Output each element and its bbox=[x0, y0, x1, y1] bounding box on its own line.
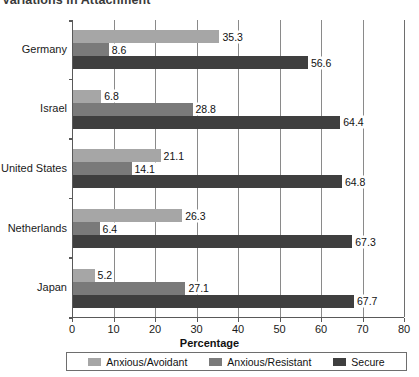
x-axis-tick bbox=[114, 318, 115, 322]
x-axis-tick bbox=[197, 318, 198, 322]
legend-swatch-icon bbox=[209, 358, 222, 366]
bar bbox=[73, 90, 101, 103]
bar-value-label: 67.7 bbox=[355, 295, 379, 308]
x-axis-tick bbox=[238, 318, 239, 322]
x-axis-title: Percentage bbox=[0, 337, 419, 349]
x-axis-tick bbox=[321, 318, 322, 322]
bar bbox=[73, 269, 95, 282]
bar-group: 35.38.656.6 bbox=[73, 20, 404, 80]
x-axis-tick-label: 0 bbox=[69, 323, 75, 335]
legend-label: Secure bbox=[351, 356, 384, 368]
bar-value-label: 56.6 bbox=[309, 56, 333, 69]
legend-swatch-icon bbox=[88, 358, 101, 366]
bar bbox=[73, 116, 340, 129]
bar-row: 28.8 bbox=[73, 103, 405, 116]
x-axis-tick-label: 60 bbox=[315, 323, 327, 335]
bar-chart: Variations in Attachment 35.38.656.66.82… bbox=[0, 0, 419, 377]
bar-row: 56.6 bbox=[73, 56, 405, 69]
bar-value-label: 14.1 bbox=[133, 162, 157, 175]
bar bbox=[73, 43, 109, 56]
x-axis-tick-label: 40 bbox=[232, 323, 244, 335]
bar-value-label: 64.8 bbox=[343, 175, 367, 188]
bar-row: 26.3 bbox=[73, 209, 405, 222]
bar-value-label: 64.4 bbox=[341, 116, 365, 129]
x-axis-tick bbox=[155, 318, 156, 322]
y-axis-category-israel: Israel bbox=[40, 102, 67, 114]
bar-value-label: 5.2 bbox=[96, 269, 115, 282]
legend-item[interactable]: Anxious/Avoidant bbox=[88, 356, 187, 368]
plot-area: 35.38.656.66.828.864.421.114.164.826.36.… bbox=[72, 20, 404, 318]
bar-value-label: 35.3 bbox=[220, 30, 244, 43]
bar-row: 8.6 bbox=[73, 43, 405, 56]
y-axis-category-netherlands: Netherlands bbox=[8, 222, 67, 234]
bar-value-label: 21.1 bbox=[162, 149, 186, 162]
bar-group: 21.114.164.8 bbox=[73, 139, 404, 199]
bar bbox=[73, 235, 352, 248]
bar bbox=[73, 162, 132, 175]
bar-group: 5.227.167.7 bbox=[73, 258, 404, 318]
x-axis-tick bbox=[280, 318, 281, 322]
bar bbox=[73, 282, 185, 295]
bar-row: 6.8 bbox=[73, 90, 405, 103]
bar-row: 21.1 bbox=[73, 149, 405, 162]
bar bbox=[73, 209, 182, 222]
bar-value-label: 6.8 bbox=[102, 90, 121, 103]
y-axis-tick bbox=[69, 20, 73, 22]
bar bbox=[73, 103, 193, 116]
bar-row: 5.2 bbox=[73, 269, 405, 282]
bar bbox=[73, 149, 161, 162]
bar bbox=[73, 56, 308, 69]
bar-value-label: 27.1 bbox=[186, 282, 210, 295]
x-axis-tick bbox=[404, 318, 405, 322]
bar-row: 67.7 bbox=[73, 295, 405, 308]
bar-value-label: 28.8 bbox=[194, 103, 218, 116]
x-axis-tick-label: 10 bbox=[107, 323, 119, 335]
bar bbox=[73, 295, 354, 308]
bar-value-label: 8.6 bbox=[110, 43, 129, 56]
y-axis-category-germany: Germany bbox=[22, 43, 67, 55]
bar bbox=[73, 175, 342, 188]
y-axis-category-united-states: United States bbox=[1, 162, 67, 174]
bar bbox=[73, 30, 219, 43]
legend-label: Anxious/Avoidant bbox=[106, 356, 187, 368]
legend-item[interactable]: Anxious/Resistant bbox=[209, 356, 311, 368]
bar-row: 67.3 bbox=[73, 235, 405, 248]
x-axis-tick-label: 50 bbox=[273, 323, 285, 335]
x-axis-tick-label: 30 bbox=[190, 323, 202, 335]
bar-value-label: 26.3 bbox=[183, 209, 207, 222]
x-axis-tick-label: 70 bbox=[356, 323, 368, 335]
x-axis-tick-label: 80 bbox=[398, 323, 410, 335]
bar-row: 64.8 bbox=[73, 175, 405, 188]
y-axis-category-japan: Japan bbox=[37, 281, 67, 293]
bar-row: 27.1 bbox=[73, 282, 405, 295]
bar-group: 6.828.864.4 bbox=[73, 80, 404, 140]
legend-label: Anxious/Resistant bbox=[227, 356, 311, 368]
chart-legend: Anxious/AvoidantAnxious/ResistantSecure bbox=[66, 352, 407, 371]
bar-value-label: 6.4 bbox=[101, 222, 120, 235]
x-axis-tick bbox=[72, 318, 73, 322]
legend-swatch-icon bbox=[333, 358, 346, 366]
bar-row: 14.1 bbox=[73, 162, 405, 175]
bar-row: 6.4 bbox=[73, 222, 405, 235]
bar-group: 26.36.467.3 bbox=[73, 199, 404, 259]
legend-item[interactable]: Secure bbox=[333, 356, 384, 368]
bar-row: 64.4 bbox=[73, 116, 405, 129]
bar-row: 35.3 bbox=[73, 30, 405, 43]
chart-title: Variations in Attachment bbox=[2, 0, 151, 7]
x-axis-tick bbox=[363, 318, 364, 322]
x-axis-tick-label: 20 bbox=[149, 323, 161, 335]
bar bbox=[73, 222, 100, 235]
bar-value-label: 67.3 bbox=[353, 235, 377, 248]
